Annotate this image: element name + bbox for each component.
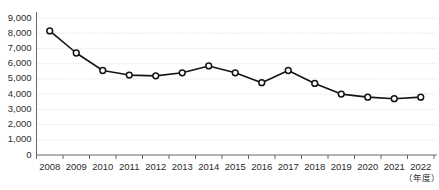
y-axis-tick-label: 6,000	[8, 57, 32, 68]
data-point-marker	[179, 70, 185, 76]
y-axis-tick-label: 4,000	[8, 88, 32, 99]
y-axis-tick-label: 5,000	[8, 72, 32, 83]
data-point-marker	[365, 94, 371, 100]
data-point-marker	[285, 68, 291, 74]
line-chart: 9,0008,0007,0006,0005,0004,0003,0002,000…	[0, 0, 439, 190]
y-axis-tick-label: 0	[26, 149, 31, 160]
y-axis-tick-labels: 9,0008,0007,0006,0005,0004,0003,0002,000…	[8, 12, 32, 160]
data-point-marker	[100, 68, 106, 74]
x-axis-tick-label: 2019	[331, 161, 352, 172]
x-axis-tick-marks	[37, 155, 435, 159]
x-axis-tick-label: 2013	[172, 161, 193, 172]
x-axis-tick-label: 2020	[357, 161, 378, 172]
data-point-marker	[418, 94, 424, 100]
series-line-path	[50, 31, 421, 99]
y-axis-tick-label: 9,000	[8, 12, 32, 23]
x-axis-tick-label: 2017	[278, 161, 299, 172]
data-point-marker	[338, 91, 344, 97]
data-point-marker	[391, 96, 397, 102]
x-axis-tick-label: 2012	[145, 161, 166, 172]
x-axis-unit-label: （年度）	[404, 173, 439, 183]
data-point-marker	[153, 73, 159, 79]
x-axis-tick-label: 2009	[66, 161, 87, 172]
x-axis-tick-label: 2016	[251, 161, 272, 172]
y-axis-tick-label: 8,000	[8, 27, 32, 38]
data-point-marker	[259, 80, 265, 86]
x-axis-tick-label: 2018	[304, 161, 325, 172]
data-point-marker	[312, 81, 318, 87]
x-axis-tick-label: 2022	[410, 161, 431, 172]
x-axis-tick-label: 2015	[225, 161, 246, 172]
x-axis-tick-label: 2021	[384, 161, 405, 172]
y-axis-tick-label: 2,000	[8, 118, 32, 129]
x-axis-tick-label: 2014	[198, 161, 219, 172]
data-point-marker	[206, 63, 212, 69]
chart-canvas: 9,0008,0007,0006,0005,0004,0003,0002,000…	[0, 0, 439, 190]
data-point-marker	[126, 72, 132, 78]
x-axis-tick-label: 2008	[39, 161, 60, 172]
data-point-marker	[73, 50, 79, 56]
x-axis-tick-label: 2010	[92, 161, 113, 172]
data-point-marker	[232, 70, 238, 76]
y-axis-tick-label: 3,000	[8, 103, 32, 114]
y-axis-tick-label: 1,000	[8, 133, 32, 144]
gridlines	[37, 18, 438, 140]
y-axis-tick-label: 7,000	[8, 42, 32, 53]
x-axis-tick-labels: 2008200920102011201220132014201520162017…	[39, 161, 431, 172]
data-point-markers	[47, 28, 424, 102]
x-axis-tick-label: 2011	[119, 161, 139, 172]
data-point-marker	[47, 28, 53, 34]
